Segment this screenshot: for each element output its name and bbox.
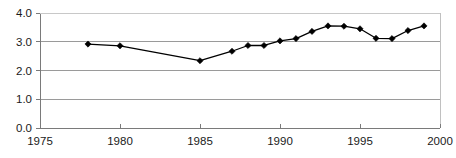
- data-point-marker: [325, 23, 331, 29]
- data-point-marker: [373, 35, 379, 41]
- data-point-markers: [85, 23, 427, 64]
- data-point-marker: [421, 23, 427, 29]
- x-axis-ticks: [40, 124, 440, 128]
- data-point-marker: [197, 58, 203, 64]
- x-tick-label: 2000: [427, 135, 453, 147]
- data-point-marker: [309, 28, 315, 34]
- chart-canvas: 0.01.02.03.04.0 197519801985199019952000: [0, 0, 456, 158]
- x-tick-label: 1980: [107, 135, 133, 147]
- series-line: [88, 26, 424, 61]
- line-chart: 0.01.02.03.04.0 197519801985199019952000: [0, 0, 456, 158]
- y-axis-tick-labels: 0.01.02.03.04.0: [16, 7, 32, 134]
- data-point-marker: [357, 26, 363, 32]
- x-tick-label: 1985: [187, 135, 213, 147]
- data-point-marker: [117, 43, 123, 49]
- x-axis-tick-labels: 197519801985199019952000: [27, 135, 453, 147]
- data-point-marker: [245, 42, 251, 48]
- data-point-marker: [261, 42, 267, 48]
- y-axis-ticks: [36, 13, 40, 128]
- y-tick-label: 3.0: [16, 36, 32, 48]
- y-tick-label: 1.0: [16, 93, 32, 105]
- x-tick-label: 1975: [27, 135, 53, 147]
- y-tick-label: 0.0: [16, 122, 32, 134]
- data-point-marker: [405, 27, 411, 33]
- x-tick-label: 1995: [347, 135, 373, 147]
- data-point-marker: [293, 35, 299, 41]
- data-point-marker: [341, 23, 347, 29]
- data-point-marker: [229, 48, 235, 54]
- x-tick-label: 1990: [267, 135, 293, 147]
- data-series-line: [88, 26, 424, 61]
- data-point-marker: [277, 38, 283, 44]
- data-point-marker: [389, 35, 395, 41]
- gridlines: [40, 13, 440, 128]
- y-tick-label: 4.0: [16, 7, 32, 19]
- y-tick-label: 2.0: [16, 65, 32, 77]
